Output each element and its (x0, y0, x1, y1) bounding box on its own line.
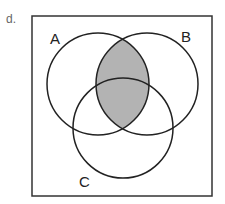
set-label-b: B (181, 28, 191, 45)
set-label-a: A (50, 30, 60, 47)
venn-diagram: A B C (0, 0, 225, 204)
set-label-c: C (79, 173, 90, 190)
